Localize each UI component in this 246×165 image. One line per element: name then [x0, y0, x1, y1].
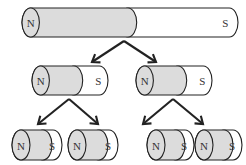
- arrow-right: [124, 41, 156, 62]
- row-1-original-magnet: NS: [22, 8, 238, 37]
- south-pole-label: S: [222, 17, 228, 29]
- south-pole-label: S: [229, 140, 235, 152]
- diagram-canvas: NSNSNSNSNSNSNS: [0, 0, 246, 165]
- magnet-quarter-2: NS: [68, 130, 118, 160]
- magnet-quarter-4: NS: [195, 130, 242, 160]
- arrow-left: [143, 99, 173, 124]
- arrow-right: [173, 99, 203, 124]
- south-pole-label: S: [49, 140, 55, 152]
- north-pole-label: N: [152, 140, 160, 152]
- arrows-split-2-left: [38, 99, 98, 124]
- arrows-split-2-right: [143, 99, 203, 124]
- magnet-quarter-3: NS: [147, 130, 194, 160]
- south-pole-label: S: [95, 75, 101, 87]
- arrows-split-1: [92, 41, 156, 62]
- magnet-original: NS: [22, 8, 238, 37]
- row-2-halves: NSNS: [32, 66, 212, 95]
- north-pole-label: N: [73, 140, 81, 152]
- north-pole-label: N: [27, 17, 35, 29]
- south-pole-label: S: [105, 140, 111, 152]
- south-pole-label: S: [181, 140, 187, 152]
- arrow-left: [38, 99, 69, 124]
- north-pole-label: N: [141, 75, 149, 87]
- north-pole-label: N: [17, 140, 25, 152]
- magnet-left-half: NS: [32, 66, 108, 95]
- north-pole-label: N: [200, 140, 208, 152]
- south-pole-label: S: [199, 75, 205, 87]
- row-3-quarters: NSNSNSNS: [12, 130, 242, 160]
- arrow-left: [92, 41, 124, 62]
- arrow-right: [69, 99, 98, 124]
- north-pole-label: N: [37, 75, 45, 87]
- magnet-quarter-1: NS: [12, 130, 62, 160]
- magnet-right-half: NS: [136, 66, 212, 95]
- magnet-division-diagram: NSNSNSNSNSNSNS: [0, 0, 246, 165]
